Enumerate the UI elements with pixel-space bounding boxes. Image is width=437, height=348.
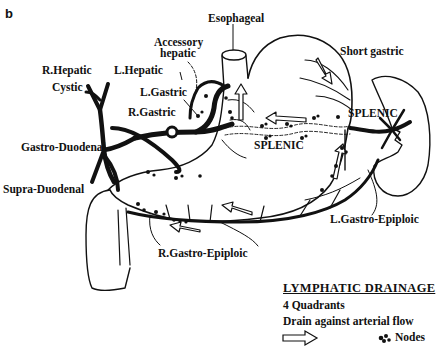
label-l-hepatic: L.Hepatic [114, 65, 163, 77]
short-gastric-vessels [300, 60, 352, 110]
gastro-duodenal-artery [104, 138, 135, 150]
label-r-gastric: R.Gastric [128, 107, 176, 119]
legend-line-quadrants: 4 Quadrants [283, 300, 345, 312]
l-hepatic-artery [100, 84, 108, 110]
legend-arrow-icon [283, 331, 317, 345]
label-short-gastric: Short gastric [340, 46, 404, 58]
label-l-gastric: L.Gastric [140, 87, 187, 99]
legend-nodes-label: Nodes [395, 332, 425, 344]
legend-nodes-icon [379, 334, 391, 343]
label-gastro-duodenal: Gastro-Duodenal [21, 142, 106, 154]
label-esophageal: Esophageal [208, 13, 264, 25]
esophagus-shape [222, 50, 248, 88]
duodenum-outline [86, 190, 130, 290]
label-splenic-center: SPLENIC [254, 140, 304, 152]
label-l-gastro-epiploic: L.Gastro-Epiploic [330, 214, 419, 226]
label-supra-duodenal: Supra-Duodenal [3, 184, 84, 196]
label-r-gastro-epiploic: R.Gastro-Epiploic [158, 248, 248, 260]
lesser-curvature [108, 88, 224, 190]
common-hepatic-artery [135, 124, 232, 138]
label-r-hepatic: R.Hepatic [42, 65, 92, 77]
legend-line-drain: Drain against arterial flow [283, 316, 414, 328]
legend-title: LYMPHATIC DRAINAGE [283, 282, 435, 295]
label-accessory-hepatic-2: hepatic [160, 48, 196, 60]
label-splenic-right: SPLENIC [348, 108, 398, 120]
splenic-artery [350, 122, 410, 132]
spleen-outline [372, 76, 430, 196]
label-cystic: Cystic [52, 82, 83, 94]
